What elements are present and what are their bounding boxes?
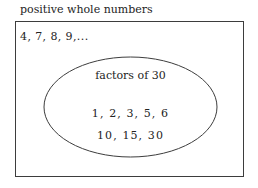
subset-ellipse (43, 56, 218, 158)
universe-outside-elements: 4, 7, 8, 9,... (20, 30, 89, 44)
subset-ellipse-shape (43, 56, 218, 158)
subset-ellipse-outline (44, 57, 217, 157)
universe-set-label: positive whole numbers (20, 3, 153, 17)
set-diagram-canvas: positive whole numbers 4, 7, 8, 9,... fa… (0, 0, 258, 188)
